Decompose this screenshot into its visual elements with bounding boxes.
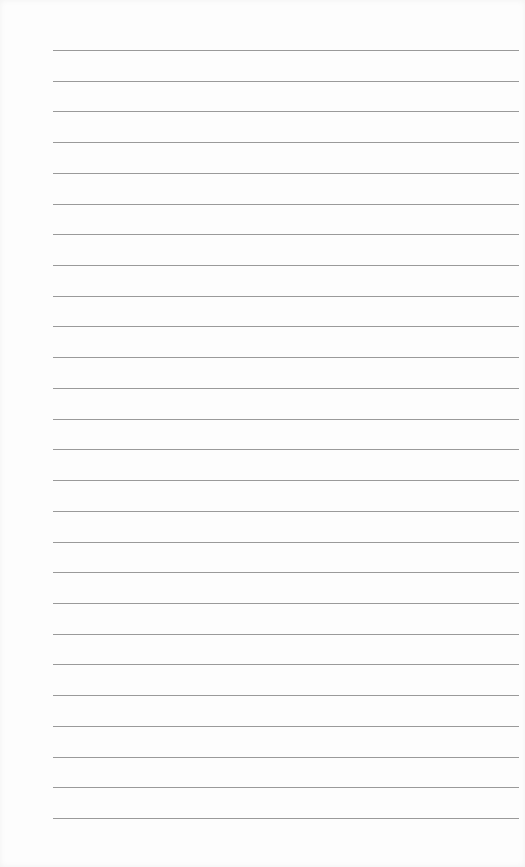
ruled-line	[53, 572, 519, 573]
ruled-line	[53, 449, 519, 450]
ruled-line	[53, 234, 519, 235]
ruled-line	[53, 204, 519, 205]
ruled-line	[53, 695, 519, 696]
ruled-line	[53, 818, 519, 819]
ruled-line	[53, 511, 519, 512]
ruled-line	[53, 81, 519, 82]
ruled-line	[53, 480, 519, 481]
ruled-line	[53, 388, 519, 389]
ruled-line	[53, 296, 519, 297]
ruled-line	[53, 326, 519, 327]
ruled-line	[53, 726, 519, 727]
lined-paper-page	[0, 0, 525, 867]
ruled-line	[53, 757, 519, 758]
ruled-line	[53, 173, 519, 174]
ruled-line	[53, 542, 519, 543]
ruled-line	[53, 787, 519, 788]
ruled-line	[53, 603, 519, 604]
ruled-line	[53, 111, 519, 112]
ruled-line	[53, 664, 519, 665]
ruled-line	[53, 50, 519, 51]
ruled-line	[53, 265, 519, 266]
ruled-line	[53, 419, 519, 420]
ruled-line	[53, 634, 519, 635]
ruled-line	[53, 357, 519, 358]
ruled-line	[53, 142, 519, 143]
